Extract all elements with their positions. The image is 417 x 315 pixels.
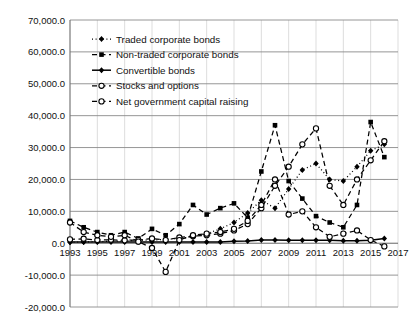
series-marker — [300, 196, 305, 201]
series-marker — [354, 228, 359, 233]
chart-legend: Traded corporate bondsNon-traded corpora… — [92, 34, 248, 107]
series-marker — [327, 183, 332, 188]
series-marker — [341, 238, 346, 244]
x-tick-label: 2017 — [387, 247, 408, 258]
series-marker — [313, 225, 318, 230]
x-tick-label: 2013 — [333, 247, 354, 258]
series-marker — [259, 237, 264, 243]
legend-marker — [99, 99, 104, 104]
series-marker — [300, 209, 305, 214]
series-marker — [122, 238, 127, 243]
series-marker — [150, 227, 155, 232]
legend-label: Non-traded corporate bonds — [116, 49, 239, 60]
series-marker — [313, 161, 318, 167]
legend-marker — [99, 83, 104, 88]
series-marker — [368, 237, 373, 242]
y-tick-label: 50,000.0 — [28, 78, 65, 89]
legend-item-0[interactable]: Traded corporate bonds — [92, 34, 220, 45]
legend-label: Traded corporate bonds — [116, 34, 220, 45]
legend-item-3[interactable]: Stocks and options — [92, 80, 199, 91]
x-tick-label: 2003 — [196, 247, 217, 258]
series-marker — [81, 225, 86, 230]
y-tick-label: -20,000.0 — [25, 302, 65, 313]
legend-label: Net government capital raising — [116, 96, 248, 107]
series-marker — [67, 220, 72, 225]
series-marker — [368, 120, 373, 125]
series-marker — [272, 237, 277, 243]
legend-item-1[interactable]: Non-traded corporate bonds — [92, 49, 239, 60]
series-marker — [354, 177, 359, 182]
series-marker — [81, 229, 86, 234]
y-tick-label: 40,000.0 — [28, 110, 65, 121]
series-marker — [300, 167, 305, 173]
series-marker — [286, 179, 291, 184]
x-tick-label: 2005 — [223, 247, 244, 258]
y-tick-label: 30,000.0 — [28, 142, 65, 153]
series-marker — [190, 233, 195, 238]
series-marker — [259, 169, 264, 174]
series-marker — [272, 177, 277, 182]
legend-item-2[interactable]: Convertible bonds — [92, 65, 195, 76]
series-marker — [272, 205, 277, 211]
series-marker — [95, 233, 100, 238]
series-marker — [245, 218, 250, 223]
series-marker — [354, 238, 359, 244]
series-marker — [382, 244, 387, 249]
chart-container: 70,000.060,000.050,000.040,000.030,000.0… — [0, 0, 417, 315]
legend-item-4[interactable]: Net government capital raising — [92, 96, 248, 107]
series-marker — [81, 236, 86, 241]
series-marker — [149, 236, 154, 241]
series-marker — [190, 239, 195, 245]
series-marker — [204, 231, 209, 236]
series-marker — [231, 219, 236, 225]
y-tick-label: 70,000.0 — [28, 15, 65, 26]
series-marker — [67, 237, 72, 242]
series-marker — [108, 234, 113, 239]
x-tick-label: 2001 — [169, 247, 190, 258]
series-marker — [300, 142, 305, 147]
legend-marker — [99, 36, 104, 42]
series-marker — [300, 237, 305, 243]
vertical-gridlines — [70, 20, 398, 307]
series-marker — [191, 203, 196, 208]
x-tick-label: 2011 — [306, 247, 326, 258]
series-marker — [163, 269, 168, 274]
series-marker — [218, 206, 223, 211]
series-marker — [259, 202, 264, 207]
series-marker — [177, 222, 182, 227]
series-marker — [313, 126, 318, 131]
series-marker — [149, 245, 154, 250]
legend-label: Stocks and options — [116, 80, 199, 91]
series-marker — [204, 239, 209, 245]
series-marker — [177, 237, 182, 242]
x-axis-tick-labels: 1993199519971999200120032005200720092011… — [59, 247, 408, 258]
series-marker — [286, 237, 291, 243]
x-tick-label: 1993 — [59, 247, 80, 258]
series-line — [70, 122, 384, 238]
y-axis-tick-labels: 70,000.060,000.050,000.040,000.030,000.0… — [25, 15, 65, 313]
series-marker — [355, 203, 360, 208]
series-line — [70, 144, 384, 242]
series-marker — [204, 212, 209, 217]
series-marker — [163, 237, 168, 242]
series-marker — [313, 237, 318, 243]
series-marker — [286, 186, 291, 192]
series-line — [70, 128, 384, 240]
y-tick-label: 20,000.0 — [28, 174, 65, 185]
x-tick-label: 1997 — [114, 247, 135, 258]
series-0 — [67, 141, 387, 245]
series-marker — [122, 233, 127, 238]
series-marker — [286, 212, 291, 217]
series-marker — [341, 231, 346, 236]
x-tick-label: 1995 — [87, 247, 108, 258]
series-marker — [163, 233, 168, 238]
series-marker — [341, 202, 346, 207]
series-marker — [382, 155, 387, 160]
series-marker — [231, 226, 236, 231]
line-chart: 70,000.060,000.050,000.040,000.030,000.0… — [0, 0, 417, 315]
legend-marker — [99, 67, 104, 73]
x-tick-label: 2015 — [360, 247, 381, 258]
series-marker — [327, 234, 332, 239]
x-tick-label: 2007 — [251, 247, 272, 258]
series-marker — [341, 225, 346, 230]
